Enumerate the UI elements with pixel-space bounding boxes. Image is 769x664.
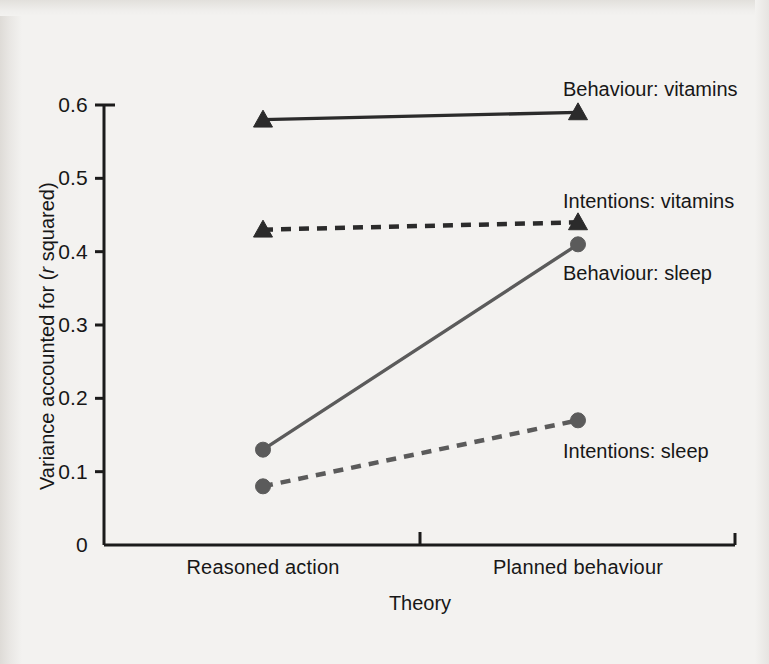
y-axis-title-pre: Variance accounted for ( bbox=[36, 274, 58, 490]
series-annotation-behaviour-sleep: Behaviour: sleep bbox=[563, 262, 712, 285]
x-tick-label-planned-behaviour: Planned behaviour bbox=[493, 556, 663, 579]
series-annotation-intentions-sleep: Intentions: sleep bbox=[563, 440, 709, 463]
y-tick-label: 0 bbox=[18, 533, 88, 557]
x-axis-title: Theory bbox=[389, 592, 451, 615]
y-axis-title: Variance accounted for (r squared) bbox=[36, 182, 59, 490]
chart-axes bbox=[95, 105, 735, 545]
y-axis-title-italic-r: r bbox=[36, 267, 58, 274]
series-annotation-intentions-vitamins: Intentions: vitamins bbox=[563, 190, 734, 213]
x-tick-label-reasoned-action: Reasoned action bbox=[186, 556, 339, 579]
y-axis-title-post: squared) bbox=[36, 182, 58, 267]
y-tick-label: 0.6 bbox=[18, 93, 88, 117]
chart-series bbox=[254, 103, 588, 494]
series-annotation-behaviour-vitamins: Behaviour: vitamins bbox=[563, 78, 738, 101]
chart-figure: 0 0.1 0.2 0.3 0.4 0.5 0.6 Reasoned actio… bbox=[0, 0, 769, 664]
